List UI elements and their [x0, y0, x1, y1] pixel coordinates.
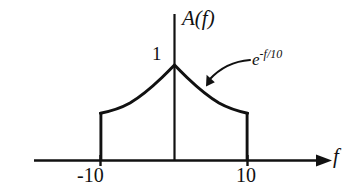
annotation-arrow-curve: [209, 60, 250, 80]
x-axis-arrowhead: [316, 155, 332, 167]
curve-equation-base: e: [252, 50, 260, 69]
x-axis-label: f: [333, 146, 339, 167]
curve-equation-exponent: -f/10: [260, 47, 283, 61]
x-tick-label-pos-ten: 10: [236, 165, 256, 185]
figure-container: A(f) f 1 -10 10 e-f/10: [0, 0, 354, 194]
x-tick-label-neg-ten: -10: [77, 165, 104, 185]
curve-equation-label: e-f/10: [252, 48, 282, 68]
y-axis-label: A(f): [182, 8, 215, 29]
plot-canvas: [0, 0, 354, 194]
peak-value-label: 1: [152, 44, 162, 63]
annotation-arrow: [206, 60, 250, 87]
